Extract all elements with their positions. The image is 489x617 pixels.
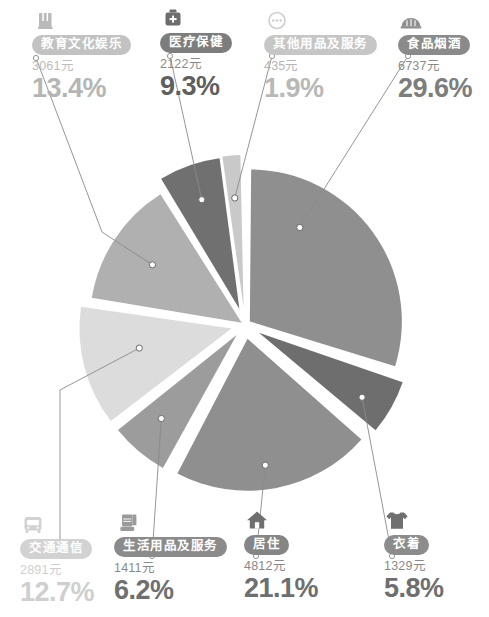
- slice-anchor-dot: [149, 262, 155, 268]
- category-pill-other: 其他用品及服务: [264, 35, 377, 55]
- category-pill-daily: 生活用品及服务: [114, 537, 227, 557]
- label-group-food: 食品烟酒 6737元 29.6%: [396, 8, 472, 103]
- amount-daily: 1411元: [114, 560, 227, 576]
- bus-icon: [18, 512, 48, 538]
- slice-anchor-dot: [232, 195, 238, 201]
- label-group-medical: 医疗保健 2122元 9.3%: [158, 6, 232, 101]
- pie-slice[interactable]: [250, 169, 402, 366]
- amount-housing: 4812元: [244, 558, 318, 574]
- infographic-canvas: 教育文化娱乐 3061元 13.4% 医疗保健 2122元 9.3%: [0, 0, 489, 617]
- book-icon: [30, 8, 60, 34]
- label-group-clothing: 衣着 1329元 5.8%: [382, 508, 444, 603]
- slice-anchor-dot: [297, 224, 303, 230]
- label-group-other: 其他用品及服务 435元 1.9%: [262, 8, 377, 103]
- label-group-education: 教育文化娱乐 3061元 13.4%: [30, 8, 131, 103]
- slice-anchor-dot: [359, 394, 365, 400]
- amount-clothing: 1329元: [384, 558, 444, 574]
- medkit-icon: [158, 6, 188, 32]
- label-stack-daily: 生活用品及服务 1411元 6.2%: [114, 536, 227, 605]
- bread-icon: [396, 8, 426, 34]
- category-pill-medical: 医疗保健: [160, 33, 232, 53]
- label-stack-transport: 交通通信 2891元 12.7%: [20, 538, 94, 607]
- label-stack-other: 其他用品及服务 435元 1.9%: [264, 34, 377, 103]
- ellipsis-circle-icon: [262, 8, 292, 34]
- percent-transport: 12.7%: [20, 577, 94, 607]
- label-group-transport: 交通通信 2891元 12.7%: [18, 512, 94, 607]
- label-stack-housing: 居住 4812元 21.1%: [244, 534, 318, 603]
- label-group-daily: 生活用品及服务 1411元 6.2%: [112, 510, 227, 605]
- towel-icon: [112, 510, 142, 536]
- category-pill-housing: 居住: [244, 535, 289, 555]
- slice-anchor-dot: [136, 345, 142, 351]
- tshirt-icon: [382, 508, 412, 534]
- slice-anchor-dot: [262, 462, 268, 468]
- percent-food: 29.6%: [398, 73, 472, 103]
- label-stack-clothing: 衣着 1329元 5.8%: [384, 534, 444, 603]
- percent-other: 1.9%: [264, 73, 377, 103]
- label-group-housing: 居住 4812元 21.1%: [242, 508, 318, 603]
- label-stack-education: 教育文化娱乐 3061元 13.4%: [32, 34, 131, 103]
- category-pill-food: 食品烟酒: [398, 35, 470, 55]
- amount-transport: 2891元: [20, 562, 94, 578]
- house-icon: [242, 508, 272, 534]
- category-pill-clothing: 衣着: [384, 535, 429, 555]
- category-pill-transport: 交通通信: [20, 539, 92, 559]
- percent-education: 13.4%: [32, 73, 131, 103]
- slice-anchor-dot: [158, 415, 164, 421]
- percent-daily: 6.2%: [114, 575, 227, 605]
- amount-education: 3061元: [32, 58, 131, 74]
- category-pill-education: 教育文化娱乐: [32, 35, 131, 55]
- amount-other: 435元: [264, 58, 377, 74]
- label-stack-medical: 医疗保健 2122元 9.3%: [160, 32, 232, 101]
- amount-food: 6737元: [398, 58, 472, 74]
- slice-anchor-dot: [199, 197, 205, 203]
- pie-slices-layer: [79, 155, 402, 491]
- percent-medical: 9.3%: [160, 71, 232, 101]
- percent-housing: 21.1%: [244, 573, 318, 603]
- label-stack-food: 食品烟酒 6737元 29.6%: [398, 34, 472, 103]
- amount-medical: 2122元: [160, 56, 232, 72]
- percent-clothing: 5.8%: [384, 573, 444, 603]
